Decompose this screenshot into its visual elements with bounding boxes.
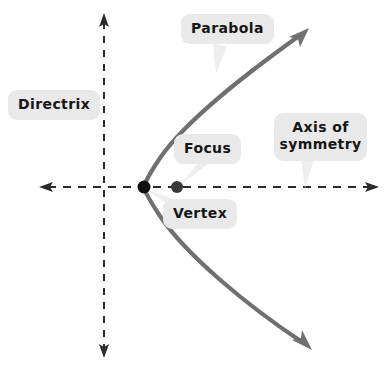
label-axis-of-symmetry-line1: Axis of: [278, 119, 363, 136]
label-focus: Focus: [174, 134, 241, 164]
label-axis-of-symmetry: Axis of symmetry: [274, 113, 367, 161]
parabola-diagram: Directrix Parabola Focus Vertex Axis of …: [0, 0, 389, 373]
parabola-stroke: [144, 36, 302, 342]
axis-of-symmetry-line: [39, 182, 379, 192]
label-axis-of-symmetry-line2: symmetry: [278, 136, 363, 153]
diagram-canvas: [0, 0, 389, 373]
parabola-curve: [144, 28, 312, 350]
axis-of-symmetry-tail: [301, 160, 314, 188]
label-directrix: Directrix: [8, 90, 100, 120]
parabola-arrow-upper-icon: [289, 28, 309, 47]
focus-point: [171, 181, 183, 193]
parabola-arrow-lower-icon: [292, 330, 312, 350]
vertex-point: [138, 181, 151, 194]
label-parabola: Parabola: [181, 14, 274, 44]
directrix-line: [99, 13, 109, 358]
label-vertex: Vertex: [163, 199, 237, 229]
parabola-tail: [213, 44, 227, 74]
